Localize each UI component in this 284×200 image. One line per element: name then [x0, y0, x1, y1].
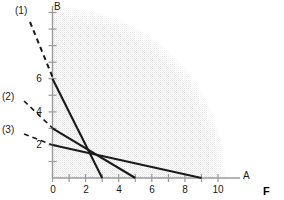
x-axis-label: A — [243, 171, 250, 181]
x-tick-0: 0 — [46, 185, 60, 195]
y-tick-6: 6 — [33, 74, 45, 84]
line-label-1: (1) — [15, 6, 27, 16]
figure-label-f: F — [263, 186, 270, 197]
shaded-region — [53, 7, 226, 178]
x-tick-6: 6 — [145, 185, 159, 195]
y-axis-label: B — [54, 2, 61, 12]
plot-canvas — [0, 0, 284, 200]
x-tick-10: 10 — [211, 185, 225, 195]
x-tick-4: 4 — [112, 185, 126, 195]
line-label-3: (3) — [2, 125, 14, 135]
x-tick-8: 8 — [178, 185, 192, 195]
line-label-2: (2) — [2, 92, 14, 102]
graph-figure: (1) (2) (3) B A F 0 2 4 6 8 10 2 4 6 — [0, 0, 284, 200]
y-tick-2: 2 — [33, 140, 45, 150]
leader-line-1 — [30, 22, 53, 77]
y-tick-4: 4 — [33, 107, 45, 117]
x-tick-2: 2 — [79, 185, 93, 195]
